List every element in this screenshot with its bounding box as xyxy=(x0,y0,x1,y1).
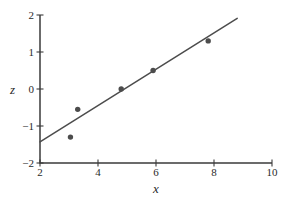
data-point xyxy=(75,107,80,112)
axes-spines xyxy=(40,15,272,163)
x-tick-label: 2 xyxy=(37,166,43,178)
scatter-plot-figure: 246810−2−1012 z x xyxy=(0,0,289,206)
data-point xyxy=(206,38,211,43)
x-tick-label: 4 xyxy=(95,166,101,178)
x-axis-label: x xyxy=(150,182,162,195)
y-tick-label: 1 xyxy=(29,46,35,58)
data-point xyxy=(68,134,73,139)
fit-line xyxy=(40,18,237,142)
y-tick-label: 0 xyxy=(29,83,35,95)
plot-canvas: 246810−2−1012 xyxy=(0,0,289,206)
y-axis-label: z xyxy=(10,83,15,96)
x-tick-label: 8 xyxy=(211,166,217,178)
x-tick-label: 6 xyxy=(153,166,159,178)
y-tick-label: −2 xyxy=(22,157,34,169)
data-point xyxy=(150,68,155,73)
y-tick-label: −1 xyxy=(22,120,34,132)
data-point xyxy=(119,86,124,91)
x-tick-label: 10 xyxy=(267,166,279,178)
y-tick-label: 2 xyxy=(29,9,35,21)
